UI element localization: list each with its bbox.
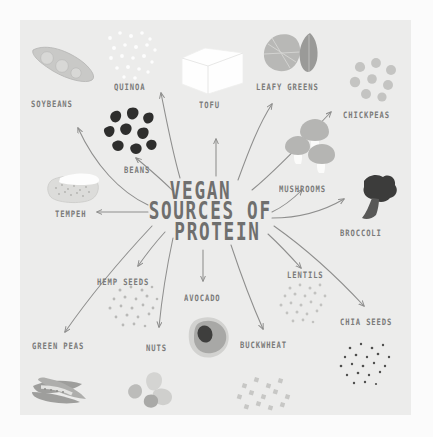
- label-tofu: TOFU: [199, 99, 220, 110]
- label-tempeh: TEMPEH: [55, 208, 86, 219]
- broccoli-icon: [362, 175, 397, 219]
- label-chickpeas: CHICKPEAS: [343, 109, 390, 120]
- buckwheat-grains-icon: [237, 377, 291, 411]
- label-avocado: AVOCADO: [184, 292, 221, 303]
- label-quinoa: QUINOA: [114, 81, 145, 92]
- avocado-icon: [189, 317, 229, 357]
- beans-icon: [104, 107, 157, 154]
- label-soybeans: SOYBEANS: [31, 98, 73, 109]
- chickpeas-icon: [350, 58, 396, 102]
- nuts-icon: [128, 372, 172, 407]
- label-beans: BEANS: [124, 164, 150, 175]
- label-nuts: NUTS: [146, 342, 167, 353]
- arrow-to-nuts: [159, 238, 173, 327]
- label-lentils: LENTILS: [287, 269, 324, 280]
- arrow-to-broccoli: [272, 199, 344, 218]
- tofu-cube-icon: [182, 48, 243, 94]
- arrow-to-chia-seeds: [274, 226, 364, 306]
- hemp-seeds-icon: [109, 286, 159, 328]
- green-peas-pods-icon: [32, 378, 86, 404]
- chia-seeds-icon: [340, 343, 390, 385]
- label-hemp-seeds: HEMP SEEDS: [97, 276, 149, 287]
- label-buckwheat: BUCKWHEAT: [240, 339, 287, 350]
- poster-title-line-3: PROTEIN: [174, 217, 260, 246]
- arrow-to-lentils: [268, 234, 301, 268]
- label-mushrooms: MUSHROOMS: [279, 183, 326, 194]
- arrow-to-buckwheat: [231, 245, 263, 329]
- arrow-to-quinoa: [161, 93, 180, 178]
- arrow-to-leafy-greens: [238, 104, 272, 180]
- quinoa-grains-icon: [108, 31, 157, 80]
- lentils-icon: [280, 284, 327, 324]
- label-green-peas: GREEN PEAS: [32, 340, 84, 351]
- tempeh-block-icon: [48, 174, 99, 203]
- leafy-greens-icon: [264, 33, 318, 72]
- label-chia-seeds: CHIA SEEDS: [340, 316, 392, 327]
- mushrooms-icon: [285, 119, 335, 173]
- soybean-pod-icon: [33, 47, 94, 81]
- label-leafy-greens: LEAFY GREENS: [256, 81, 319, 92]
- label-broccoli: BROCCOLI: [340, 227, 382, 238]
- infographic-poster: VEGAN SOURCES OF PROTEIN SOYBEANS QUINOA…: [0, 0, 433, 437]
